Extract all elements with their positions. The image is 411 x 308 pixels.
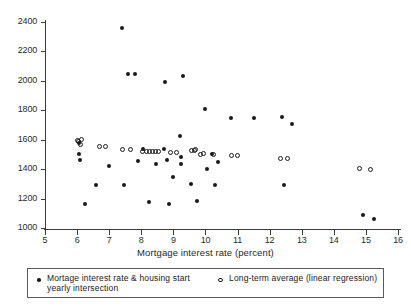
y-tick-label-2200: 2200	[5, 46, 37, 55]
data-point-s0-18	[171, 175, 175, 179]
data-point-s0-28	[213, 183, 217, 187]
x-axis-title: Mortgage interest rate (percent)	[0, 248, 411, 258]
x-tick-label-6: 6	[65, 236, 89, 245]
data-point-s0-34	[290, 122, 294, 126]
x-tick-label-8: 8	[129, 236, 153, 245]
data-point-s1-14	[168, 150, 173, 155]
open-circle-marker-icon	[218, 278, 223, 283]
x-tick-label-7: 7	[97, 236, 121, 245]
data-point-s0-24	[195, 199, 199, 203]
data-point-s0-19	[178, 134, 182, 138]
x-tick-label-16: 16	[386, 236, 410, 245]
data-point-s0-25	[203, 107, 207, 111]
data-point-s0-4	[94, 183, 98, 187]
data-point-s1-24	[278, 156, 283, 161]
data-point-s1-3	[79, 137, 84, 142]
data-point-s1-23	[235, 153, 240, 158]
data-point-s0-15	[163, 80, 167, 84]
data-point-s1-21	[211, 152, 216, 157]
data-point-s0-13	[154, 162, 158, 166]
y-tick-label-2400: 2400	[5, 17, 37, 26]
data-point-s0-32	[280, 115, 284, 119]
y-tick-label-1800: 1800	[5, 105, 37, 114]
x-tick-label-12: 12	[258, 236, 282, 245]
data-point-s1-6	[120, 147, 125, 152]
legend-entry-series1: Mortage interest rate & housing start ye…	[47, 273, 215, 293]
data-point-s0-33	[282, 183, 286, 187]
y-tick-label-1400: 1400	[5, 164, 37, 173]
scatter-chart-figure: 24002200200018001600140012001000 5678910…	[0, 0, 411, 308]
data-point-s1-22	[229, 153, 234, 158]
data-point-s0-22	[181, 74, 185, 78]
data-point-s0-36	[372, 217, 376, 221]
data-point-s1-7	[128, 147, 133, 152]
data-point-s1-4	[97, 144, 102, 149]
data-point-s0-30	[229, 116, 233, 120]
data-point-s1-18	[193, 147, 198, 152]
data-point-s0-26	[205, 167, 209, 171]
data-point-s0-20	[179, 155, 183, 159]
data-point-s0-35	[361, 213, 365, 217]
data-point-s0-1	[77, 152, 81, 156]
x-tick-label-10: 10	[193, 236, 217, 245]
x-tick-label-9: 9	[161, 236, 185, 245]
y-tick-1600	[41, 140, 46, 141]
data-point-s0-8	[126, 72, 130, 76]
data-point-s1-2	[78, 142, 83, 147]
data-point-s0-23	[189, 182, 193, 186]
data-point-s1-13	[156, 149, 161, 154]
data-point-s0-29	[216, 160, 220, 164]
data-point-s0-9	[133, 72, 137, 76]
legend-entry-series1-line2: yearly intersection	[47, 283, 215, 293]
data-point-s1-5	[103, 144, 108, 149]
x-tick-label-15: 15	[354, 236, 378, 245]
data-point-s0-16	[165, 158, 169, 162]
x-tick-label-14: 14	[322, 236, 346, 245]
y-tick-2000	[41, 81, 46, 82]
data-point-s0-10	[136, 159, 140, 163]
filled-circle-marker-icon	[37, 278, 41, 282]
y-tick-1000	[41, 228, 46, 229]
data-point-s0-31	[252, 116, 256, 120]
y-tick-1800	[41, 110, 46, 111]
data-point-s0-2	[78, 158, 82, 162]
x-axis-line	[44, 229, 401, 230]
y-tick-2200	[41, 51, 46, 52]
x-tick-label-5: 5	[33, 236, 57, 245]
data-point-s0-7	[122, 183, 126, 187]
data-point-s0-3	[83, 202, 87, 206]
data-point-s1-27	[368, 167, 373, 172]
data-point-s0-14	[162, 147, 166, 151]
y-tick-2400	[41, 22, 46, 23]
legend-entry-series1-line1: Mortage interest rate & housing start	[47, 273, 190, 283]
y-tick-label-1000: 1000	[5, 223, 37, 232]
y-tick-label-1200: 1200	[5, 194, 37, 203]
y-tick-label-1600: 1600	[5, 135, 37, 144]
y-tick-1400	[41, 169, 46, 170]
data-point-s0-5	[107, 164, 111, 168]
data-point-s0-17	[167, 202, 171, 206]
data-point-s1-26	[357, 166, 362, 171]
x-tick-label-11: 11	[226, 236, 250, 245]
data-point-s0-6	[120, 26, 124, 30]
data-point-s1-15	[174, 150, 179, 155]
x-tick-label-13: 13	[290, 236, 314, 245]
y-tick-label-2000: 2000	[5, 76, 37, 85]
data-point-s1-20	[201, 151, 206, 156]
data-point-s0-21	[179, 162, 183, 166]
scan-header-artifact	[30, 0, 230, 6]
legend-entry-series2: Long-term average (linear regression)	[229, 273, 381, 283]
data-point-s1-25	[285, 156, 290, 161]
y-tick-1200	[41, 199, 46, 200]
chart-legend: Mortage interest rate & housing start ye…	[27, 268, 384, 298]
data-point-s0-12	[147, 200, 151, 204]
